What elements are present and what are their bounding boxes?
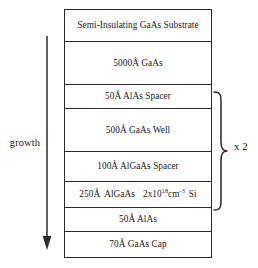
layer-label: 50Å AlAs [117, 214, 159, 225]
layer-gaas-cap: 70Å GaAs Cap [65, 232, 211, 257]
arrow-down-icon [40, 36, 54, 252]
repeat-count-label: x 2 [234, 140, 248, 153]
doped-thickness: 250Å [79, 189, 100, 199]
doped-dopant: Si [189, 189, 197, 199]
layer-gaas-well: 500Å GaAs Well [65, 109, 211, 152]
growth-direction-group: growth [0, 0, 60, 268]
layer-substrate: Semi-Insulating GaAs Substrate [65, 10, 211, 42]
layer-label: 5000Å GaAs [111, 58, 164, 69]
layer-label: Semi-Insulating GaAs Substrate [75, 20, 200, 31]
curly-brace-right-icon [212, 90, 234, 212]
layer-label: 50Å AlAs Spacer [103, 91, 173, 102]
doped-unit: cm [168, 189, 179, 199]
layer-alas: 50Å AlAs [65, 208, 211, 232]
doped-unit-exponent: -3 [180, 187, 185, 194]
layer-label: 500Å GaAs Well [104, 125, 172, 136]
repeat-annotation-group: x 2 [212, 90, 258, 212]
layer-alas-spacer: 50Å AlAs Spacer [65, 85, 211, 109]
layer-stack-diagram: growth Semi-Insulating GaAs Substrate 50… [0, 0, 258, 268]
layer-algaas-doped: 250ÅAlGaAs2x1018cm-3Si [65, 182, 211, 208]
layer-label: 100Å AlGaAs Spacer [95, 161, 180, 172]
layer-algaas-spacer: 100Å AlGaAs Spacer [65, 152, 211, 182]
doped-material: AlGaAs [104, 189, 135, 199]
layer-label-doped: 250ÅAlGaAs2x1018cm-3Si [77, 189, 198, 200]
layer-buffer-gaas: 5000Å GaAs [65, 42, 211, 85]
layer-stack: Semi-Insulating GaAs Substrate 5000Å GaA… [64, 9, 212, 258]
doped-concentration: 2x10 [143, 189, 162, 199]
layer-label: 70Å GaAs Cap [107, 239, 168, 250]
